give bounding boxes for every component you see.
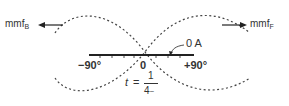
mmf-f-main: mmf <box>250 18 269 29</box>
tick-right: +90° <box>184 59 207 71</box>
time-denominator: 4~ <box>144 85 154 96</box>
tick-center: 0 <box>140 59 146 71</box>
tick-left: −90° <box>78 59 101 71</box>
fraction-bar <box>144 83 158 84</box>
arrowhead-right-icon <box>240 22 247 28</box>
mmf-f-sub: F <box>269 23 273 30</box>
time-var: t <box>125 76 128 88</box>
time-numerator: 1 <box>148 70 154 81</box>
mmf-f-label: mmfF <box>250 18 274 29</box>
mmf-b-label: mmfB <box>5 18 29 29</box>
current-label: 0 A <box>186 37 202 49</box>
time-equals: = <box>133 76 139 88</box>
zero-amp-pointer <box>171 45 184 54</box>
ac-cycle-symbol: ~ <box>150 87 155 96</box>
arrowhead-left-icon <box>38 22 45 28</box>
mmf-b-main: mmf <box>5 18 24 29</box>
mmf-b-sub: B <box>24 23 29 30</box>
